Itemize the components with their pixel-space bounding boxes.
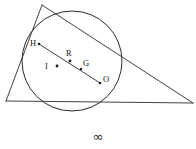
point-i-dot — [56, 65, 59, 68]
triangle-left-side — [6, 5, 42, 101]
infinity-symbol: ∞ — [0, 130, 196, 143]
geometry-canvas: H I R G O — [0, 0, 196, 149]
point-r-dot — [69, 60, 72, 63]
point-h-dot — [38, 43, 41, 46]
point-g-dot — [80, 68, 82, 70]
point-o-dot — [99, 82, 102, 85]
point-label-i: I — [45, 61, 48, 71]
geometry-figure: H I R G O ∞ — [0, 0, 196, 149]
point-label-r: R — [66, 48, 72, 58]
circle-shape — [22, 11, 122, 111]
point-label-o: O — [103, 74, 109, 84]
point-label-h: H — [30, 38, 36, 48]
triangle-hypotenuse-side — [42, 5, 193, 103]
point-label-g: G — [83, 58, 89, 68]
